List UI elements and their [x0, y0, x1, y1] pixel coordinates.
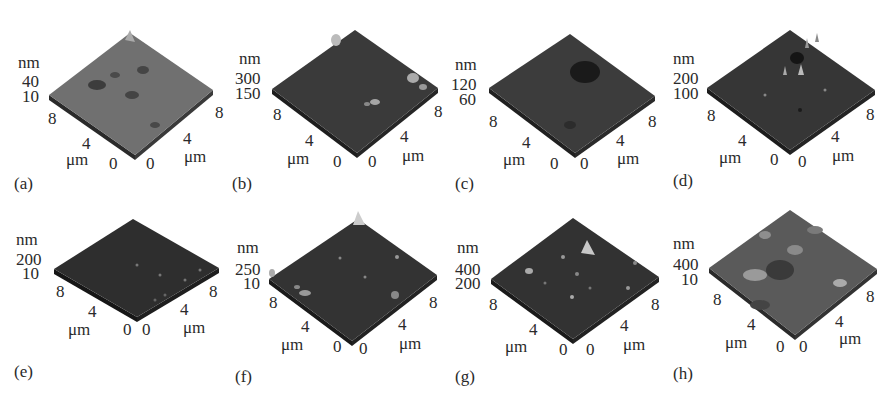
panel-caption: (d) [673, 172, 693, 189]
x-unit-label: μm [281, 336, 303, 353]
x-unit-label: μm [725, 334, 747, 351]
afm-panel-d: nm 200 100 8 4 μm 0 0 4 μm 8 (d) [665, 0, 889, 197]
y-tick-0: 0 [580, 155, 589, 172]
x-unit-label: μm [68, 321, 90, 338]
x-tick-8: 8 [489, 113, 498, 130]
x-tick-0: 0 [109, 155, 118, 172]
x-tick-8: 8 [273, 106, 282, 123]
y-tick-0: 0 [586, 341, 595, 358]
z-tick-min: 10 [681, 271, 698, 288]
y-unit-label: μm [183, 319, 205, 336]
x-tick-4: 4 [529, 321, 538, 338]
x-tick-0: 0 [333, 338, 342, 355]
x-unit-label: μm [287, 150, 309, 167]
z-unit-label: nm [673, 50, 695, 67]
z-tick-min: 200 [455, 275, 481, 292]
y-unit-label: μm [617, 150, 639, 167]
x-tick-8: 8 [48, 110, 57, 127]
x-tick-8: 8 [489, 296, 498, 313]
y-tick-8: 8 [209, 283, 218, 300]
y-tick-8: 8 [429, 294, 438, 311]
y-unit-label: μm [402, 147, 424, 164]
panel-caption: (b) [232, 175, 252, 192]
afm-panel-h: nm 400 10 8 4 μm 0 0 4 μm 8 (h) [665, 195, 889, 392]
panel-caption: (f) [235, 368, 252, 385]
x-tick-0: 0 [559, 341, 568, 358]
y-tick-8: 8 [651, 296, 660, 313]
y-tick-4: 4 [400, 128, 409, 145]
y-unit-label: μm [832, 147, 854, 164]
x-tick-0: 0 [770, 151, 779, 168]
z-unit-label: nm [457, 239, 479, 256]
z-tick-min: 150 [235, 85, 261, 102]
x-unit-label: μm [505, 338, 527, 355]
y-tick-4: 4 [831, 128, 840, 145]
y-tick-8: 8 [648, 113, 657, 130]
afm-panel-g: nm 400 200 8 4 μm 0 0 4 μm 8 (g) [445, 195, 669, 392]
panel-caption: (e) [14, 363, 33, 380]
x-tick-8: 8 [269, 294, 278, 311]
y-tick-0: 0 [368, 153, 377, 170]
z-tick-min: 10 [22, 265, 39, 282]
afm-panel-f: nm 250 10 8 4 μm 0 0 4 μm 8 (f) [225, 195, 449, 392]
y-tick-0: 0 [146, 155, 155, 172]
panel-caption: (c) [455, 175, 474, 192]
panel-caption: (g) [455, 368, 475, 385]
x-tick-8: 8 [707, 107, 716, 124]
x-tick-4: 4 [747, 316, 756, 333]
y-unit-label: μm [399, 335, 421, 352]
z-unit-label: nm [673, 235, 695, 252]
x-tick-8: 8 [56, 283, 65, 300]
x-unit-label: μm [503, 151, 525, 168]
y-tick-8: 8 [866, 106, 875, 123]
panel-caption: (h) [673, 365, 693, 382]
y-tick-8: 8 [215, 104, 224, 121]
afm-surface-g [445, 195, 669, 392]
z-tick-min: 60 [459, 91, 476, 108]
z-unit-label: nm [237, 239, 259, 256]
z-unit-label: nm [16, 231, 38, 248]
y-tick-0: 0 [799, 338, 808, 355]
afm-panel-e: nm 200 10 8 4 μm 0 0 4 μm 8 (e) [0, 195, 224, 392]
z-tick-min: 100 [673, 85, 699, 102]
x-tick-0: 0 [550, 155, 559, 172]
x-tick-4: 4 [301, 318, 310, 335]
y-unit-label: μm [623, 336, 645, 353]
x-tick-0: 0 [123, 321, 132, 338]
y-tick-0: 0 [142, 321, 151, 338]
y-tick-0: 0 [359, 340, 368, 357]
afm-panel-a: nm 40 10 8 4 μm 0 0 4 μm 8 (a) [0, 0, 224, 197]
x-tick-4: 4 [522, 134, 531, 151]
z-unit-label: nm [455, 56, 477, 73]
afm-surface-f [225, 195, 449, 392]
y-unit-label: μm [184, 148, 206, 165]
x-tick-0: 0 [776, 338, 785, 355]
z-tick-min: 10 [243, 275, 260, 292]
x-unit-label: μm [719, 149, 741, 166]
y-unit-label: μm [839, 330, 861, 347]
y-tick-8: 8 [434, 103, 443, 120]
z-unit-label: nm [18, 54, 40, 71]
y-tick-4: 4 [835, 313, 844, 330]
y-tick-4: 4 [620, 317, 629, 334]
afm-surface-e [0, 195, 224, 392]
y-tick-8: 8 [866, 288, 875, 305]
afm-panel-c: nm 120 60 8 4 μm 0 0 4 μm 8 (c) [445, 0, 669, 197]
x-tick-8: 8 [713, 291, 722, 308]
x-tick-0: 0 [333, 153, 342, 170]
x-tick-4: 4 [88, 303, 97, 320]
z-unit-label: nm [239, 50, 261, 67]
afm-panel-b: nm 300 150 8 4 μm 0 0 4 μm 8 (b) [225, 0, 449, 197]
y-tick-4: 4 [398, 316, 407, 333]
afm-surface-h [665, 195, 889, 392]
y-tick-4: 4 [616, 132, 625, 149]
x-tick-4: 4 [738, 132, 747, 149]
panel-caption: (a) [14, 175, 33, 192]
x-unit-label: μm [66, 151, 88, 168]
y-tick-4: 4 [180, 301, 189, 318]
x-tick-4: 4 [305, 132, 314, 149]
y-tick-4: 4 [183, 130, 192, 147]
z-tick-min: 10 [22, 88, 39, 105]
y-tick-0: 0 [798, 153, 807, 170]
